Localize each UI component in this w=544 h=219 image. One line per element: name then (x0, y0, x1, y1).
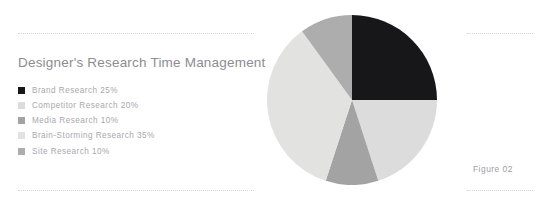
legend-item-brand-research[interactable]: Brand Research 25% (18, 83, 262, 98)
pie-slice[interactable] (352, 15, 437, 100)
legend-item-competitor-research[interactable]: Competitor Research 20% (18, 98, 262, 113)
legend-item-brain-storming-research[interactable]: Brain-Storming Research 35% (18, 129, 262, 144)
chart-info-panel: Designer's Research Time Management Bran… (18, 55, 262, 159)
legend-swatch-icon (18, 148, 25, 155)
legend-swatch-icon (18, 87, 25, 94)
legend-item-media-research[interactable]: Media Research 10% (18, 113, 262, 128)
legend-swatch-icon (18, 102, 25, 109)
pie-chart (267, 15, 437, 185)
divider-left-bottom (18, 190, 254, 191)
chart-title: Designer's Research Time Management (18, 55, 262, 70)
legend-item-label: Brain-Storming Research 35% (32, 131, 155, 140)
legend-item-site-research[interactable]: Site Research 10% (18, 144, 262, 159)
divider-left-top (18, 33, 254, 34)
legend-swatch-icon (18, 117, 25, 124)
divider-right-bottom (467, 190, 533, 191)
legend-item-label: Brand Research 25% (32, 86, 118, 95)
legend-item-label: Media Research 10% (32, 116, 118, 125)
legend-item-label: Site Research 10% (32, 147, 110, 156)
divider-right-top (467, 33, 533, 34)
legend-item-label: Competitor Research 20% (32, 101, 138, 110)
pie-chart-svg (267, 15, 437, 185)
figure-container: Designer's Research Time Management Bran… (0, 0, 544, 219)
legend-swatch-icon (18, 132, 25, 139)
figure-caption: Figure 02 (473, 164, 513, 174)
chart-legend: Brand Research 25% Competitor Research 2… (18, 83, 262, 158)
